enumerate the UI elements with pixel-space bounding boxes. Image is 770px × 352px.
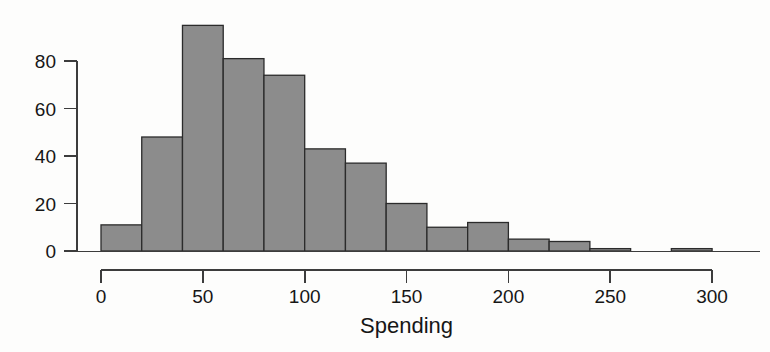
histogram-bar <box>223 59 264 251</box>
y-tick-label: 80 <box>35 51 56 72</box>
x-tick-label: 0 <box>96 286 107 307</box>
histogram-bar <box>671 249 712 251</box>
x-tick-label: 200 <box>493 286 525 307</box>
y-tick-label: 20 <box>35 194 56 215</box>
histogram-bar <box>142 137 183 251</box>
y-axis-tick-labels: 020406080 <box>35 51 56 262</box>
x-axis-tick-labels: 050100150200250300 <box>96 286 728 307</box>
x-tick-label: 100 <box>289 286 321 307</box>
histogram-bar <box>345 163 386 251</box>
histogram-bar <box>549 242 590 252</box>
histogram-bar <box>264 75 305 251</box>
x-tick-label: 50 <box>192 286 213 307</box>
histogram-bar <box>468 223 509 252</box>
y-tick-label: 0 <box>45 241 56 262</box>
histogram-bars <box>101 25 712 251</box>
x-tick-label: 150 <box>391 286 423 307</box>
x-axis-title: Spending <box>360 313 453 338</box>
histogram-bar <box>101 225 142 251</box>
histogram-bar <box>386 204 427 252</box>
histogram-bar <box>305 149 346 251</box>
histogram-plot: 020406080 050100150200250300 Spending <box>0 0 770 352</box>
histogram-bar <box>508 239 549 251</box>
x-tick-label: 250 <box>594 286 626 307</box>
y-tick-label: 40 <box>35 146 56 167</box>
y-axis-ticks <box>64 61 77 251</box>
histogram-bar <box>182 25 223 251</box>
y-tick-label: 60 <box>35 99 56 120</box>
x-tick-label: 300 <box>696 286 728 307</box>
histogram-bar <box>427 227 468 251</box>
histogram-bar <box>590 249 631 251</box>
x-axis-ticks <box>101 270 712 283</box>
histogram-figure: 020406080 050100150200250300 Spending <box>0 0 770 352</box>
